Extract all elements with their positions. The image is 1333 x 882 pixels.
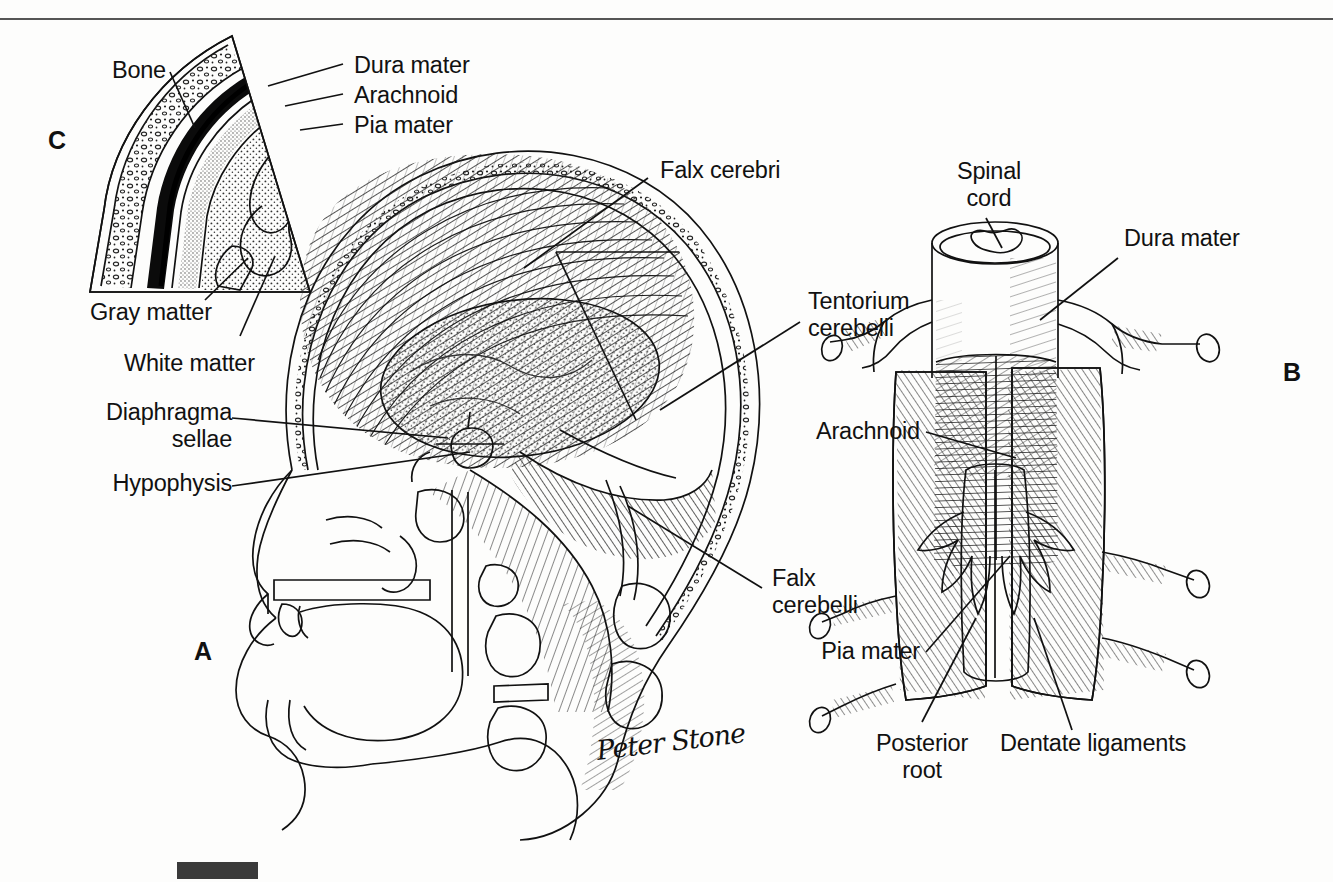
label-dura-mater-c: Dura mater	[354, 52, 470, 79]
label-spinal-cord: Spinal cord	[930, 158, 1048, 212]
label-pia-mater-b: Pia mater	[760, 638, 920, 665]
leader-falx-cerebri	[524, 178, 648, 268]
leader-spinal-cord	[986, 218, 1002, 248]
leader-white-matter	[240, 256, 275, 336]
leader-bone	[170, 72, 195, 128]
facial-skeleton	[236, 470, 578, 840]
leader-pia-c	[300, 124, 343, 130]
leader-dura-c	[268, 64, 343, 86]
anatomy-figure: Bone Dura mater Arachnoid Pia mater Gray…	[0, 0, 1333, 882]
panel-letter-a: A	[194, 637, 212, 666]
artist-signature: Peter Stone	[595, 717, 747, 766]
panel-letter-c: C	[48, 126, 66, 155]
label-white-matter: White matter	[124, 350, 255, 377]
label-bone: Bone	[18, 57, 166, 84]
label-posterior-root: Posterior root	[858, 730, 986, 784]
leader-posterior-root	[922, 618, 976, 722]
label-diaphragma-sellae: Diaphragma sellae	[16, 399, 232, 453]
label-pia-mater-c: Pia mater	[354, 112, 453, 139]
leader-diaphragma	[232, 418, 448, 438]
leader-tentorium	[660, 322, 800, 410]
leader-hypophysis	[232, 452, 470, 486]
label-tentorium-cerebelli: Tentorium cerebelli	[808, 288, 909, 342]
dura-tube	[932, 222, 1058, 378]
label-arachnoid-c: Arachnoid	[354, 82, 458, 109]
scale-bar	[177, 862, 258, 879]
label-arachnoid-b: Arachnoid	[760, 418, 920, 445]
hypophysis-art	[412, 412, 504, 482]
label-dura-mater-b: Dura mater	[1124, 225, 1240, 252]
arachnoid-sheath	[934, 355, 1058, 570]
label-hypophysis: Hypophysis	[16, 470, 232, 497]
leader-pia-b	[926, 556, 1010, 652]
spinal-cord-pia	[961, 464, 1030, 681]
leader-arachnoid-c	[285, 94, 343, 106]
label-dentate-ligaments: Dentate ligaments	[1000, 730, 1186, 757]
panel-letter-b: B	[1283, 358, 1301, 387]
leader-gray-matter	[205, 258, 248, 300]
leader-dura-b	[1040, 258, 1118, 320]
leader-falx-cerebelli	[628, 506, 762, 588]
dura-flaps	[890, 362, 1110, 706]
label-falx-cerebelli: Falx cerebelli	[772, 565, 858, 619]
dentate-ligaments	[918, 512, 1074, 614]
label-gray-matter: Gray matter	[90, 299, 212, 326]
label-falx-cerebri: Falx cerebri	[660, 157, 780, 184]
leader-arachnoid-b	[926, 432, 1016, 458]
top-divider-rule	[0, 18, 1333, 20]
leader-dentate-ligaments	[1034, 618, 1072, 730]
